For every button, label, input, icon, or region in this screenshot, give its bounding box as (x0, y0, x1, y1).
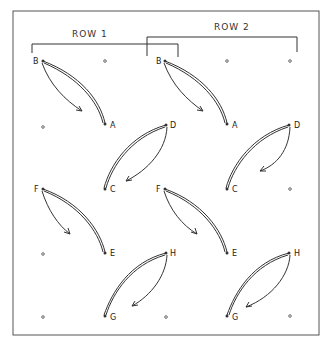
move-b-to-a-row1 (42, 61, 105, 123)
point-a-row2 (226, 123, 229, 126)
point-markers (42, 60, 291, 318)
label-c-row1: C (110, 185, 116, 194)
frame-border (13, 11, 319, 335)
label-c-row2: C (232, 185, 238, 194)
point-a-row1 (104, 123, 107, 126)
row1-bracket (32, 44, 178, 57)
point-c-row2 (226, 188, 229, 191)
point-e-row2 (226, 252, 229, 255)
label-a-row2: A (232, 121, 238, 130)
row2-label: ROW 2 (214, 22, 250, 32)
label-g-row2: G (232, 313, 238, 322)
move-d-to-c-row1 (104, 125, 167, 188)
point-g-row1 (104, 315, 107, 318)
point-f-row1 (42, 188, 45, 191)
move-h-to-g-row2 (227, 253, 290, 315)
empty-spot (289, 188, 292, 191)
point-f-row2 (164, 188, 167, 191)
label-a-row1: A (110, 121, 116, 130)
move-f-to-e-row2 (164, 189, 227, 252)
row2-bracket (147, 37, 297, 56)
empty-spot (289, 315, 292, 318)
empty-spot (289, 60, 292, 63)
point-h-row1 (165, 252, 168, 255)
label-b-row1: B (33, 57, 39, 66)
move-h-to-g-row1 (104, 253, 167, 315)
empty-spot (165, 316, 168, 319)
label-h-row2: H (294, 249, 300, 258)
empty-spot (42, 126, 45, 129)
move-b-to-a-row2 (164, 61, 227, 123)
point-d-row1 (165, 124, 168, 127)
point-e-row1 (104, 252, 107, 255)
row1-label: ROW 1 (72, 29, 108, 39)
empty-spot (42, 316, 45, 319)
move-f-to-e-row1 (42, 189, 105, 252)
label-d-row1: D (170, 121, 176, 130)
empty-spot (226, 60, 229, 63)
label-g-row1: G (110, 313, 116, 322)
point-d-row2 (288, 124, 291, 127)
point-c-row1 (104, 188, 107, 191)
point-g-row2 (226, 315, 229, 318)
point-b-row2 (164, 60, 167, 63)
label-b-row2: B (156, 57, 162, 66)
point-b-row1 (42, 60, 45, 63)
empty-spot (42, 253, 45, 256)
empty-spot (104, 60, 107, 63)
label-e-row2: E (232, 249, 237, 258)
move-d-to-c-row2 (226, 125, 290, 188)
label-f-row1: F (34, 185, 39, 194)
label-h-row1: H (170, 249, 176, 258)
point-h-row2 (288, 252, 291, 255)
diagram-canvas: ROW 1 ROW 2 (0, 0, 325, 348)
label-f-row2: F (156, 185, 161, 194)
label-d-row2: D (294, 121, 300, 130)
label-e-row1: E (110, 249, 115, 258)
